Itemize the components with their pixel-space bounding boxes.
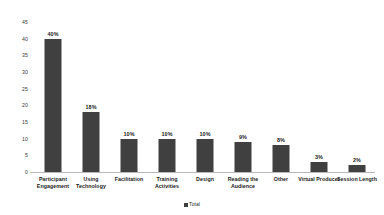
legend-item-total[interactable]: Total	[184, 202, 200, 207]
x-axis-tick-label: Session Length	[335, 176, 379, 183]
bar-chart: 45 40 35 30 25 20 15 10 5 0 40% 18% 10% …	[0, 0, 384, 215]
bar[interactable]	[235, 142, 252, 172]
bar-value-label: 18%	[72, 105, 110, 110]
bar-value-label: 3%	[300, 155, 338, 160]
legend-swatch-icon	[184, 203, 188, 207]
legend-label: Total	[189, 202, 200, 207]
bar-value-label: 10%	[186, 132, 224, 137]
bar-value-label: 2%	[338, 158, 376, 163]
bar[interactable]	[349, 165, 366, 172]
bar[interactable]	[83, 112, 100, 172]
bar-value-label: 9%	[224, 135, 262, 140]
chart-legend: Total	[0, 200, 384, 210]
bar[interactable]	[121, 139, 138, 172]
bar-value-label: 8%	[262, 138, 300, 143]
bar[interactable]	[311, 162, 328, 172]
bar[interactable]	[45, 39, 62, 172]
x-axis-labels: Participant Engagement Using Technology …	[0, 176, 384, 202]
bar[interactable]	[197, 139, 214, 172]
bar-value-label: 10%	[148, 132, 186, 137]
bar-value-label: 10%	[110, 132, 148, 137]
bar[interactable]	[273, 145, 290, 172]
bar[interactable]	[159, 139, 176, 172]
bar-value-label: 40%	[34, 32, 72, 37]
